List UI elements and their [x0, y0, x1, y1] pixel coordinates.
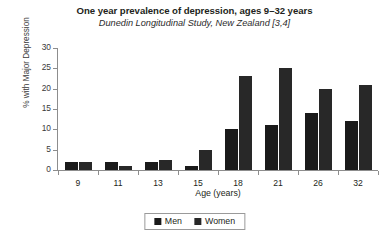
x-tick-mark	[138, 171, 139, 175]
legend-label-women: Women	[205, 217, 235, 226]
y-tick-label: 15	[42, 103, 51, 113]
legend-label-men: Men	[165, 217, 182, 226]
x-tick-mark	[378, 171, 379, 175]
chart-subtitle: Dunedin Longitudinal Study, New Zealand …	[0, 17, 389, 30]
bar-women-13	[159, 160, 172, 170]
chart-figure: One year prevalence of depression, ages …	[0, 0, 389, 243]
legend-swatch-men-icon	[154, 218, 161, 225]
y-axis-label: % with Major Depression	[22, 0, 31, 133]
bar-men-11	[105, 162, 118, 170]
y-tick-mark	[53, 48, 57, 49]
x-tick-mark	[178, 171, 179, 175]
y-tick-label: 10	[42, 123, 51, 133]
x-tick-label: 18	[218, 178, 258, 188]
bar-men-9	[65, 162, 78, 170]
bar-men-26	[305, 113, 318, 170]
bar-women-9	[79, 162, 92, 170]
bar-women-15	[199, 150, 212, 170]
y-tick-label: 25	[42, 62, 51, 72]
y-tick-label: 0	[46, 164, 51, 174]
bar-women-18	[239, 76, 252, 170]
y-tick-label: 20	[42, 83, 51, 93]
x-tick-label: 13	[138, 178, 178, 188]
y-tick-mark	[53, 109, 57, 110]
x-tick-mark	[258, 171, 259, 175]
bar-men-32	[345, 121, 358, 170]
title-block: One year prevalence of depression, ages …	[0, 4, 389, 30]
chart-legend: Men Women	[144, 213, 245, 230]
x-tick-mark	[218, 171, 219, 175]
y-tick-mark	[53, 150, 57, 151]
bar-men-18	[225, 129, 238, 170]
bar-women-32	[359, 85, 372, 170]
y-tick-mark	[53, 170, 57, 171]
y-axis-line	[57, 48, 58, 171]
y-tick-mark	[53, 129, 57, 130]
x-tick-mark	[338, 171, 339, 175]
x-tick-mark	[58, 171, 59, 175]
bar-men-13	[145, 162, 158, 170]
legend-swatch-women-icon	[194, 218, 201, 225]
x-tick-mark	[98, 171, 99, 175]
legend-item-women: Women	[194, 217, 235, 226]
y-tick-label: 5	[46, 144, 51, 154]
plot-area: 051015202530 911131518212632	[58, 48, 378, 170]
x-axis-label: Age (years)	[58, 188, 378, 198]
x-tick-label: 26	[298, 178, 338, 188]
bar-men-21	[265, 125, 278, 170]
x-tick-label: 9	[58, 178, 98, 188]
bar-women-11	[119, 166, 132, 170]
y-tick-mark	[53, 89, 57, 90]
bar-women-26	[319, 89, 332, 170]
bar-women-21	[279, 68, 292, 170]
y-tick-mark	[53, 68, 57, 69]
x-tick-label: 15	[178, 178, 218, 188]
legend-item-men: Men	[154, 217, 182, 226]
x-tick-label: 11	[98, 178, 138, 188]
y-tick-label: 30	[42, 42, 51, 52]
x-tick-mark	[298, 171, 299, 175]
x-tick-label: 21	[258, 178, 298, 188]
bar-men-15	[185, 166, 198, 170]
x-tick-label: 32	[338, 178, 378, 188]
chart-title: One year prevalence of depression, ages …	[0, 4, 389, 17]
